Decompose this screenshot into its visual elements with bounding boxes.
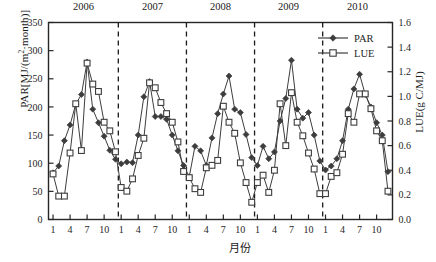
- y-axis-left-tick-label: 150: [28, 130, 43, 141]
- data-point-lue: [362, 91, 368, 97]
- y-axis-right-tick-label: 1.0: [399, 91, 412, 102]
- chart-figure: PAR[MJ/(m2·month)] LUE(g C/MJ) 月份 050100…: [0, 0, 436, 262]
- data-point-lue: [158, 100, 164, 106]
- x-axis-tick-label: 4: [136, 224, 141, 235]
- year-label: 2006: [53, 1, 113, 12]
- x-axis-tick-label: 4: [272, 224, 277, 235]
- x-axis-tick-label: 7: [357, 224, 362, 235]
- y-axis-right-tick-label: 0.4: [399, 165, 412, 176]
- data-point-lue: [266, 190, 272, 196]
- x-axis-tick-label: 10: [303, 224, 313, 235]
- data-point-lue: [56, 193, 62, 199]
- data-point-lue: [243, 180, 249, 186]
- data-point-lue: [306, 150, 312, 156]
- data-point-lue: [164, 111, 170, 117]
- data-point-lue: [192, 186, 198, 192]
- year-label: 2008: [191, 1, 251, 12]
- y-axis-left-tick-label: 250: [28, 73, 43, 84]
- data-point-lue: [198, 190, 204, 196]
- x-axis-tick-label: 10: [167, 224, 177, 235]
- data-point-lue: [209, 162, 215, 168]
- y-axis-left-tick-label: 200: [28, 102, 43, 113]
- x-axis-tick-label: 10: [372, 224, 382, 235]
- data-point-lue: [260, 172, 266, 178]
- data-point-lue: [317, 191, 323, 197]
- data-point-lue: [272, 167, 278, 173]
- data-point-lue: [300, 133, 306, 139]
- data-point-lue: [328, 174, 334, 180]
- x-axis-tick-label: 1: [323, 224, 328, 235]
- data-point-lue: [107, 128, 113, 134]
- data-point-lue: [374, 128, 380, 134]
- data-point-lue: [203, 165, 209, 171]
- data-point-lue: [357, 91, 363, 97]
- y-axis-left-tick-label: 350: [28, 17, 43, 28]
- x-axis-tick-label: 7: [221, 224, 226, 235]
- chart-plot-area: 0501001502002503003500.00.20.40.60.81.01…: [0, 0, 436, 262]
- y-axis-right-tick-label: 1.2: [399, 66, 412, 77]
- x-axis-tick-label: 10: [235, 224, 245, 235]
- data-point-lue: [84, 60, 90, 66]
- data-point-lue: [277, 101, 283, 107]
- data-point-lue: [379, 138, 385, 144]
- x-axis-tick-label: 4: [204, 224, 209, 235]
- data-point-lue: [351, 119, 357, 125]
- data-point-lue: [181, 169, 187, 175]
- data-point-lue: [368, 106, 374, 112]
- data-point-lue: [101, 119, 107, 125]
- data-point-lue: [96, 89, 102, 95]
- data-point-lue: [152, 85, 158, 91]
- data-point-lue: [67, 150, 73, 156]
- y-axis-right-tick-label: 0.0: [399, 214, 412, 225]
- x-axis-tick-label: 4: [68, 224, 73, 235]
- data-point-lue: [340, 151, 346, 157]
- data-point-lue: [237, 160, 243, 166]
- data-point-lue: [130, 176, 136, 182]
- data-point-lue: [147, 80, 153, 86]
- data-point-lue: [175, 139, 181, 145]
- data-point-lue: [50, 171, 56, 177]
- x-axis-tick-label: 10: [99, 224, 109, 235]
- data-point-lue: [61, 193, 67, 199]
- data-point-lue: [294, 119, 300, 125]
- year-label: 2007: [122, 1, 182, 12]
- data-point-lue: [385, 188, 391, 194]
- data-point-lue: [169, 119, 175, 125]
- data-point-lue: [186, 175, 192, 181]
- year-label: 2010: [328, 1, 388, 12]
- y-axis-right-tick-label: 1.6: [399, 17, 412, 28]
- data-point-lue: [334, 170, 340, 176]
- x-axis-tick-label: 1: [187, 224, 192, 235]
- year-label: 2009: [259, 1, 319, 12]
- x-axis-tick-label: 1: [119, 224, 124, 235]
- data-point-lue: [311, 166, 317, 172]
- x-axis-tick-label: 7: [153, 224, 158, 235]
- data-point-lue: [232, 130, 238, 136]
- y-axis-right-tick-label: 0.8: [399, 116, 412, 127]
- x-axis-tick-label: 7: [289, 224, 294, 235]
- legend-label-par: PAR: [354, 33, 373, 44]
- data-point-lue: [226, 119, 232, 125]
- data-point-lue: [283, 143, 289, 149]
- x-axis-tick-label: 7: [85, 224, 90, 235]
- legend-label-lue: LUE: [354, 48, 374, 59]
- data-point-lue: [289, 90, 295, 96]
- y-axis-left-tick-label: 100: [28, 158, 43, 169]
- data-point-lue: [215, 158, 221, 164]
- data-point-lue: [141, 135, 147, 141]
- data-point-lue: [113, 149, 119, 155]
- data-point-lue: [73, 101, 79, 107]
- data-point-lue: [124, 188, 130, 194]
- data-point-lue: [118, 185, 124, 191]
- data-point-lue: [90, 81, 96, 87]
- data-point-lue: [323, 191, 329, 197]
- y-axis-left-tick-label: 0: [38, 214, 43, 225]
- y-axis-right-tick-label: 0.6: [399, 140, 412, 151]
- x-axis-tick-label: 1: [51, 224, 56, 235]
- data-point-lue: [255, 180, 261, 186]
- y-axis-right-tick-label: 0.2: [399, 189, 412, 200]
- data-point-lue: [135, 153, 141, 159]
- data-point-lue: [220, 103, 226, 109]
- y-axis-left-tick-label: 50: [33, 186, 43, 197]
- data-point-lue: [345, 111, 351, 117]
